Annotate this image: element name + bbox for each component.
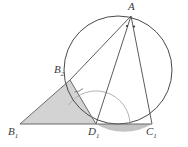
chord-a-b2 [70,16,131,80]
vertex-label-b1-letter: B [8,125,15,137]
vertex-label-b2-subscript: 2 [61,70,65,78]
vertex-label-a-letter: A [128,0,135,12]
vertex-label-a: A [128,1,135,15]
vertex-label-d1-subscript: 1 [96,132,100,140]
vertex-label-c1: C1 [146,126,157,140]
vertex-label-d1-letter: D [88,125,96,137]
vertex-label-c1-subscript: 1 [153,132,157,140]
vertex-label-d1: D1 [88,126,99,140]
shaded-circular-segment [96,124,152,132]
angle-dot-mark-1 [126,25,128,27]
geometry-figure: A B2 B1 D1 C1 [0,0,188,147]
shaded-triangle-b1-b2-d1 [20,80,96,124]
vertex-label-b2-letter: B [54,63,61,75]
chord-a-c1 [131,16,152,124]
vertex-label-b1-subscript: 1 [15,132,19,140]
vertex-label-b1: B1 [8,126,18,140]
angle-dot-mark-2 [133,25,135,27]
vertex-label-b2: B2 [54,64,64,78]
